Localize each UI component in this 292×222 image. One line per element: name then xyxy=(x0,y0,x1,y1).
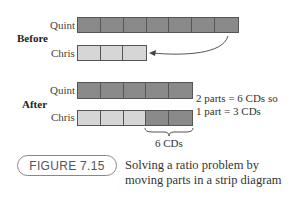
before-chris-strip xyxy=(77,45,147,61)
figure-number-badge: FIGURE 7.15 xyxy=(17,155,117,176)
brace-icon xyxy=(144,127,194,137)
strip-part xyxy=(169,83,192,98)
figure-caption: Solving a ratio problem by moving parts … xyxy=(125,158,285,188)
strip-part xyxy=(101,83,124,98)
after-quint-strip xyxy=(77,82,193,99)
strip-part xyxy=(101,46,124,60)
before-quint-strip xyxy=(77,17,239,33)
move-arrow-icon xyxy=(145,34,235,60)
strip-part xyxy=(146,111,169,125)
before-quint-label: Quint xyxy=(50,19,75,31)
strip-part xyxy=(124,18,147,32)
strip-part xyxy=(123,46,146,60)
strip-part xyxy=(78,83,101,98)
after-chris-strip xyxy=(77,110,193,126)
ratio-note-line1: 2 parts = 6 CDs so xyxy=(196,92,278,105)
strip-part xyxy=(192,18,215,32)
brace-label: 6 CDs xyxy=(155,137,183,150)
strip-part xyxy=(101,18,124,32)
strip-part xyxy=(169,18,192,32)
strip-part xyxy=(78,18,101,32)
strip-part xyxy=(124,111,147,125)
strip-part xyxy=(146,83,169,98)
after-section-label: After xyxy=(22,98,47,110)
after-chris-label: Chris xyxy=(51,111,75,123)
strip-part xyxy=(215,18,238,32)
strip-part xyxy=(78,46,101,60)
after-quint-label: Quint xyxy=(50,84,75,96)
strip-part xyxy=(78,111,101,125)
before-chris-label: Chris xyxy=(51,47,75,59)
strip-part xyxy=(169,111,192,125)
before-section-label: Before xyxy=(17,32,48,44)
ratio-note-line2: 1 part = 3 CDs xyxy=(196,105,261,118)
strip-part xyxy=(101,111,124,125)
strip-part xyxy=(147,18,170,32)
strip-part xyxy=(124,83,147,98)
